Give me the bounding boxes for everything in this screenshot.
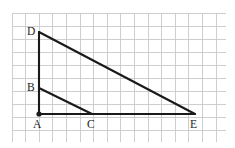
vertex-label-b: B xyxy=(27,81,35,93)
vertex-label-e: E xyxy=(190,118,197,130)
vertex-markers xyxy=(36,111,41,116)
geometry-figure-canvas: ABCDE xyxy=(0,0,235,148)
vertex-label-c: C xyxy=(87,118,95,130)
vertex-label-d: D xyxy=(27,25,36,37)
geometry-figure-svg: ABCDE xyxy=(0,0,235,148)
vertex-dot-a xyxy=(36,111,41,116)
vertex-label-a: A xyxy=(33,118,42,130)
